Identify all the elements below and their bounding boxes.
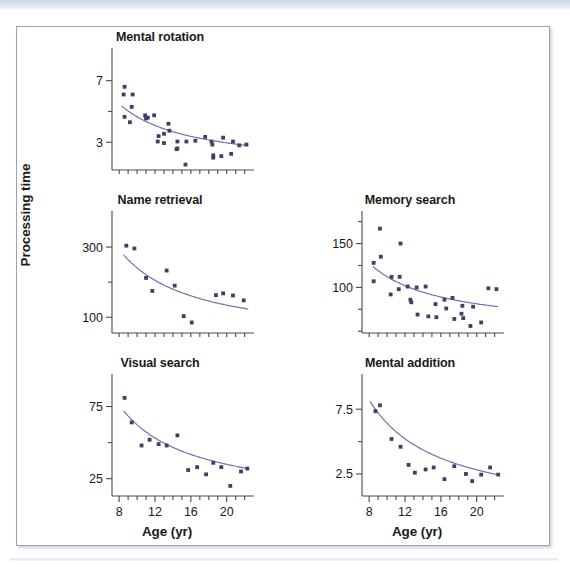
x-axis-label-visual-search: Age (yr) xyxy=(72,524,262,539)
svg-text:75: 75 xyxy=(89,400,103,414)
svg-text:8: 8 xyxy=(116,505,123,519)
svg-text:25: 25 xyxy=(89,472,103,486)
plot-mental-addition: 2.57.58121620 xyxy=(310,356,510,526)
bottom-decorative-rule xyxy=(10,558,558,561)
top-decorative-bar xyxy=(0,0,570,9)
figure-root: Processing time Mental rotation 37 Name … xyxy=(0,0,570,567)
plot-name-retrieval: 100300 xyxy=(60,193,260,358)
svg-text:20: 20 xyxy=(220,505,234,519)
panel-memory-search: Memory search 100150 xyxy=(310,193,510,358)
panel-name-retrieval: Name retrieval 100300 xyxy=(60,193,260,358)
svg-text:12: 12 xyxy=(148,505,162,519)
x-axis-label-mental-addition: Age (yr) xyxy=(322,524,512,539)
plot-visual-search: 25758121620 xyxy=(60,356,260,526)
plot-mental-rotation: 37 xyxy=(60,30,260,195)
svg-text:7: 7 xyxy=(96,74,103,88)
svg-text:150: 150 xyxy=(332,237,353,251)
svg-text:8: 8 xyxy=(366,505,373,519)
panel-mental-addition: Mental addition 2.57.58121620 Age (yr) xyxy=(310,356,510,541)
svg-text:2.5: 2.5 xyxy=(336,467,353,481)
svg-text:300: 300 xyxy=(82,241,103,255)
svg-text:16: 16 xyxy=(184,505,198,519)
panel-visual-search: Visual search 25758121620 Age (yr) xyxy=(60,356,260,541)
y-axis-label: Processing time xyxy=(18,145,36,285)
svg-text:12: 12 xyxy=(398,505,412,519)
svg-text:3: 3 xyxy=(96,136,103,150)
svg-text:20: 20 xyxy=(470,505,484,519)
svg-text:100: 100 xyxy=(332,281,353,295)
svg-text:7.5: 7.5 xyxy=(336,403,353,417)
svg-text:16: 16 xyxy=(434,505,448,519)
panel-mental-rotation: Mental rotation 37 xyxy=(60,30,260,195)
plot-memory-search: 100150 xyxy=(310,193,510,358)
svg-text:100: 100 xyxy=(82,311,103,325)
